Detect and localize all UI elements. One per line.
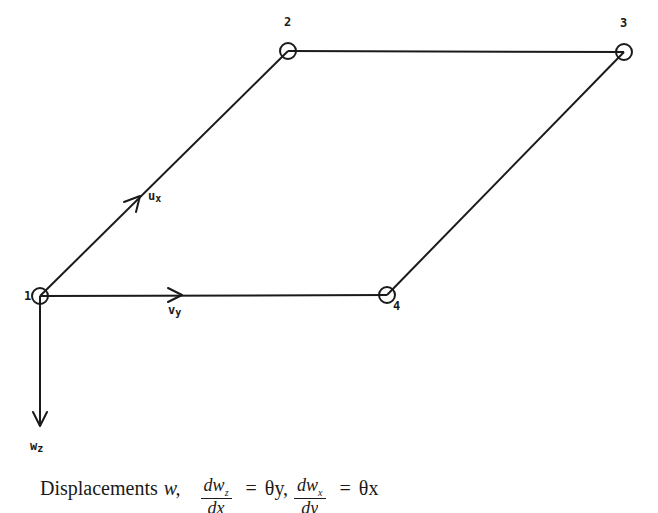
vy-label: vy [168,303,181,318]
ux-label-main: u [148,189,155,203]
edge-4-1 [40,295,387,296]
caption-w: w, [164,477,181,500]
caption-prefix: Displacements [40,477,158,500]
rhs-theta-y: θy, [265,477,288,500]
node-3-label: 3 [620,16,627,30]
fraction-2-numerator: dwx [294,476,325,499]
edge-2-3 [288,51,624,52]
displacement-caption: Displacements w, dwz dx = θy, dwx dy = θ… [40,470,378,507]
wz-label-sub: z [37,443,43,454]
equals-2: = [340,477,351,500]
node-1-label: 1 [24,289,31,303]
ux-label-sub: x [155,193,161,204]
fraction-dwz-dx: dwz dx [201,476,232,513]
wz-label: wz [30,439,43,454]
node-2-label: 2 [284,15,291,29]
rhs-theta-x: θx [359,477,379,500]
vy-label-sub: y [175,307,181,318]
fraction-1-numerator: dwz [201,476,232,499]
edge-1-2 [40,51,288,296]
node-4-label: 4 [393,299,400,313]
equals-1: = [246,477,257,500]
fraction-2-denominator: dy [301,499,318,513]
vy-label-main: v [168,303,175,317]
ux-label: ux [148,189,161,204]
edge-3-4 [387,52,624,295]
fraction-1-denominator: dx [208,499,225,513]
fraction-dwx-dy: dwx dy [294,476,325,513]
